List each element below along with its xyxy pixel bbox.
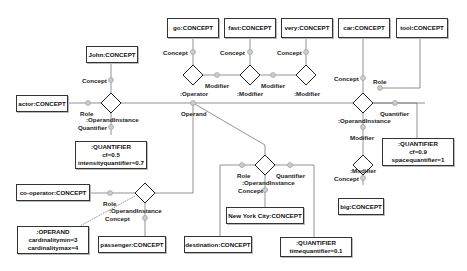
john-concept-box[interactable]: John:CONCEPT xyxy=(86,46,138,63)
fast-label: fast:CONCEPT xyxy=(228,24,271,32)
quantifier-value: timequantifier=0.1 xyxy=(289,247,342,255)
operand-edge-label: Operand xyxy=(181,110,206,117)
operand-instance-label: :OperandInstance xyxy=(242,179,295,186)
car-label: car:CONCEPT xyxy=(343,24,385,32)
concept-edge-label: Concept xyxy=(334,175,359,182)
tool-label: tool:CONCEPT xyxy=(400,24,444,32)
concept-edge-label: Concept xyxy=(238,187,263,194)
quantifier-edge-label: Quantifier xyxy=(78,124,107,131)
quantifier-edge-label: Quantifier xyxy=(380,110,409,117)
car-concept-box[interactable]: car:CONCEPT xyxy=(338,18,390,38)
operator-node-label: :Operator xyxy=(180,90,208,97)
role-edge-label: Role xyxy=(103,200,116,207)
operand-title: :OPERAND xyxy=(36,228,69,236)
quantifier-cf: cf=0.5 xyxy=(102,151,120,159)
quantifier-title: :QUANTIFIER xyxy=(91,143,131,151)
quantifier-value: intensityquantifier=0.7 xyxy=(78,159,144,167)
quantifier-cf: cf=0.9 xyxy=(409,148,427,156)
modifier-edge-label: Modifier xyxy=(205,82,229,89)
cardinality-min: cardinalitymin=3 xyxy=(28,236,77,244)
destination-concept-box[interactable]: destination:CONCEPT xyxy=(184,236,252,253)
actor-concept-box[interactable]: actor:CONCEPT xyxy=(16,95,68,112)
john-label: John:CONCEPT xyxy=(88,51,135,59)
fast-concept-box[interactable]: fast:CONCEPT xyxy=(224,18,276,38)
quantifier-title: :QUANTIFIER xyxy=(296,239,336,247)
go-concept-box[interactable]: go:CONCEPT xyxy=(167,18,219,38)
intensity-quantifier-box[interactable]: :QUANTIFIER cf=0.5 intensityquantifier=0… xyxy=(75,141,147,169)
modifier-edge-label: Modifier xyxy=(261,82,285,89)
space-quantifier-box[interactable]: :QUANTIFIER cf=0.9 spacequantifier=1 xyxy=(382,138,454,166)
quantifier-value: spacequantifier=1 xyxy=(392,156,445,164)
concept-edge-label: Concept xyxy=(105,215,130,222)
quantifier-edge-label: Quantifier xyxy=(276,172,305,179)
operand-instance-label: :OperandInstance xyxy=(338,117,391,124)
modifier-node-label: :Modifier xyxy=(237,90,263,97)
modifier-node-label: :Modifier xyxy=(350,167,376,174)
quantifier-title: :QUANTIFIER xyxy=(398,140,438,148)
new-york-city-label: New York City:CONCEPT xyxy=(228,212,301,220)
role-edge-label: Role xyxy=(237,172,250,179)
very-label: very:CONCEPT xyxy=(284,24,329,32)
big-concept-box[interactable]: big:CONCEPT xyxy=(338,198,384,215)
operand-instance-label: :OperandInstance xyxy=(109,207,162,214)
role-edge-label: Role xyxy=(373,78,386,85)
co-operator-label: co-operator:CONCEPT xyxy=(20,189,87,197)
new-york-city-concept-box[interactable]: New York City:CONCEPT xyxy=(226,207,304,224)
modifier-node-label: :Modifier xyxy=(294,90,320,97)
co-operator-concept-box[interactable]: co-operator:CONCEPT xyxy=(16,184,90,201)
passenger-label: passenger:CONCEPT xyxy=(100,241,163,249)
concept-edge-label: Concept xyxy=(334,75,359,82)
operand-instance-label: :OperandInstance xyxy=(86,116,139,123)
concept-edge-label: Concept xyxy=(82,77,107,84)
actor-label: actor:CONCEPT xyxy=(18,100,65,108)
concept-edge-label: Concept xyxy=(163,49,188,56)
concept-edge-label: Concept xyxy=(220,49,245,56)
passenger-concept-box[interactable]: passenger:CONCEPT xyxy=(98,236,166,253)
time-quantifier-box[interactable]: :QUANTIFIER timequantifier=0.1 xyxy=(280,237,352,257)
tool-concept-box[interactable]: tool:CONCEPT xyxy=(396,18,448,38)
go-label: go:CONCEPT xyxy=(173,24,213,32)
very-concept-box[interactable]: very:CONCEPT xyxy=(281,18,333,38)
concept-edge-label: Concept xyxy=(277,49,302,56)
operand-box[interactable]: :OPERAND cardinalitymin=3 cardinalitymax… xyxy=(17,226,89,254)
cardinality-max: cardinalitymax=4 xyxy=(28,244,78,252)
big-label: big:CONCEPT xyxy=(340,203,382,211)
destination-label: destination:CONCEPT xyxy=(185,241,250,249)
modifier-edge-label: Modifier xyxy=(350,134,374,141)
